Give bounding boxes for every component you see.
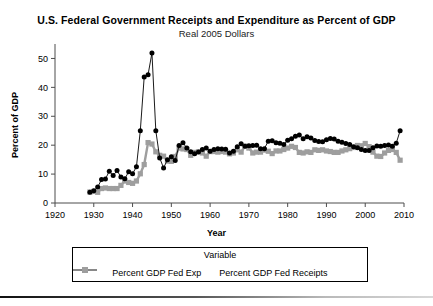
y-tick-label: 50 xyxy=(38,54,48,64)
data-point xyxy=(297,133,302,138)
data-point xyxy=(394,150,399,155)
data-point xyxy=(138,128,143,133)
data-point xyxy=(157,155,162,160)
data-point xyxy=(130,171,135,176)
data-point xyxy=(390,144,395,149)
legend-entries: Percent GDP Fed Exp Percent GDP Fed Rece… xyxy=(73,265,367,281)
data-point xyxy=(398,158,403,163)
data-point xyxy=(138,171,143,176)
legend-label-fed-receipts: Percent GDP Fed Receipts xyxy=(219,268,327,278)
y-tick-label: 40 xyxy=(38,83,48,93)
data-point xyxy=(204,146,209,151)
data-point xyxy=(398,128,403,133)
data-point xyxy=(204,154,209,159)
data-point xyxy=(223,147,228,152)
legend-marker-square-icon xyxy=(73,265,97,275)
chart-figure: U.S. Federal Government Receipts and Exp… xyxy=(0,0,433,306)
x-tick-label: 1920 xyxy=(45,210,65,220)
data-point xyxy=(103,177,108,182)
data-point xyxy=(134,164,139,169)
legend-title: Variable xyxy=(73,250,367,260)
series-line xyxy=(90,53,400,192)
data-point xyxy=(180,140,185,145)
data-point xyxy=(122,176,127,181)
legend-item-fed-receipts[interactable]: Percent GDP Fed Receipts xyxy=(219,268,327,278)
x-tick-label: 1940 xyxy=(123,210,143,220)
y-tick-label: 10 xyxy=(38,169,48,179)
data-point xyxy=(239,150,244,155)
data-point xyxy=(161,166,166,171)
x-tick-label: 2010 xyxy=(394,210,414,220)
legend-item-fed-exp[interactable]: Percent GDP Fed Exp xyxy=(112,268,201,278)
data-point xyxy=(146,72,151,77)
x-tick-label: 1980 xyxy=(278,210,298,220)
y-tick-label: 20 xyxy=(38,140,48,150)
data-point xyxy=(115,168,120,173)
x-tick-label: 1970 xyxy=(239,210,259,220)
data-point xyxy=(293,145,298,150)
data-point xyxy=(149,50,154,55)
x-tick-label: 1950 xyxy=(161,210,181,220)
data-point xyxy=(281,142,286,147)
data-point xyxy=(173,158,178,163)
data-point xyxy=(142,162,147,167)
bottom-divider xyxy=(0,296,433,298)
data-point xyxy=(153,128,158,133)
data-point xyxy=(95,185,100,190)
x-tick-label: 1930 xyxy=(84,210,104,220)
x-tick-label: 1960 xyxy=(200,210,220,220)
data-point xyxy=(231,149,236,154)
data-point xyxy=(262,146,267,151)
series-fed-exp xyxy=(87,50,402,194)
data-point xyxy=(91,188,96,193)
data-point xyxy=(134,178,139,183)
data-point xyxy=(254,143,259,148)
data-point xyxy=(394,141,399,146)
x-tick-label: 1990 xyxy=(316,210,336,220)
y-tick-label: 30 xyxy=(38,111,48,121)
data-point xyxy=(107,169,112,174)
data-point xyxy=(184,146,189,151)
data-point xyxy=(149,141,154,146)
data-point xyxy=(169,154,174,159)
legend-label-fed-exp: Percent GDP Fed Exp xyxy=(112,268,201,278)
data-point xyxy=(111,173,116,178)
y-tick-label: 0 xyxy=(43,198,48,208)
chart-legend: Variable Percent GDP Fed Exp Percent GDP… xyxy=(72,247,368,282)
x-tick-label: 2000 xyxy=(355,210,375,220)
